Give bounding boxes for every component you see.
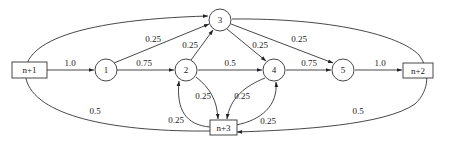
edge-2-to-4: 0.5 (198, 58, 262, 70)
edge-label: 0.25 (252, 40, 268, 50)
edge-label: 0.25 (182, 40, 198, 50)
edge-label: 0.25 (195, 91, 211, 101)
edge-2-to-n3: 0.25 (195, 77, 218, 119)
flow-graph: 1.0 0.75 0.25 0.25 0.5 0.25 0.25 0.25 0.… (0, 0, 456, 142)
edge-4-to-n3: 0.25 (227, 78, 265, 119)
edge-n1-to-1: 1.0 (47, 58, 94, 70)
node-n1: n+1 (12, 62, 47, 78)
node-label: n+2 (411, 66, 425, 76)
edge-label: 0.25 (168, 115, 184, 125)
edge-n3-to-2: 0.25 (168, 81, 210, 127)
node-label: n+1 (22, 65, 36, 75)
node-3: 3 (209, 9, 231, 31)
node-2: 2 (175, 59, 197, 81)
edge-label: 1.0 (374, 58, 386, 68)
edge-1-to-2: 0.75 (117, 58, 174, 70)
edge-label: 1.0 (64, 58, 76, 68)
edge-label: 0.75 (301, 58, 317, 68)
edge-label: 0.5 (224, 58, 236, 68)
node-4: 4 (263, 59, 285, 81)
node-label: n+3 (216, 123, 231, 133)
edge-label: 0.5 (89, 106, 101, 116)
edge-n3-to-4: 0.25 (236, 82, 276, 126)
edge-label: 0.75 (136, 58, 152, 68)
node-label: 1 (104, 65, 109, 75)
node-1: 1 (95, 59, 117, 81)
node-n2: n+2 (403, 63, 433, 78)
node-n3: n+3 (210, 120, 237, 135)
edge-5-to-n2: 1.0 (355, 58, 402, 70)
edge-label: 0.25 (260, 116, 276, 126)
edge-label: 0.25 (145, 34, 161, 44)
edge-label: 0.25 (234, 91, 250, 101)
node-label: 5 (341, 65, 346, 75)
node-label: 4 (272, 65, 277, 75)
edge-label: 0.5 (352, 106, 364, 116)
edge-3-to-4: 0.25 (227, 29, 268, 61)
edge-3-to-5: 0.25 (231, 24, 333, 63)
edge-label: 0.25 (291, 34, 307, 44)
node-label: 3 (218, 15, 223, 25)
edge-2-to-3: 0.25 (182, 30, 213, 60)
node-label: 2 (184, 65, 189, 75)
node-5: 5 (332, 59, 354, 81)
